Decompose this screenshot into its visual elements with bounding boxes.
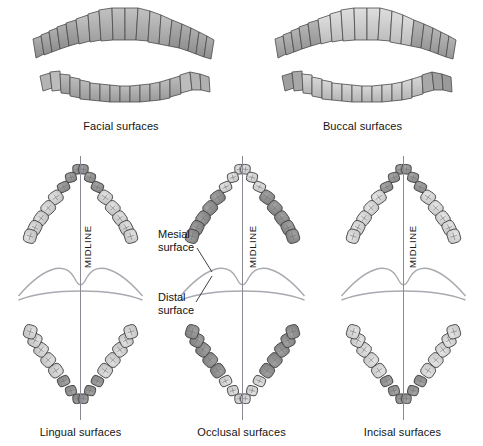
facial-maxillary-arch	[33, 8, 214, 59]
distal-line-1: Distal	[158, 291, 186, 303]
anterior-views-group	[0, 0, 483, 120]
midline-label-occlusal: MIDLINE	[247, 225, 258, 268]
arch-panel-incisal	[342, 156, 466, 420]
dental-surfaces-figure: Facial surfaces Buccal surfaces	[0, 0, 483, 446]
caption-incisal-surfaces: Incisal surfaces	[322, 426, 483, 438]
annotation-mesial-surface: Mesial surface	[158, 228, 194, 253]
caption-occlusal-surfaces: Occlusal surfaces	[161, 426, 322, 438]
caption-buccal-surfaces: Buccal surfaces	[242, 120, 483, 132]
buccal-mandibular-arch	[282, 71, 452, 102]
caption-lingual-surfaces: Lingual surfaces	[0, 426, 161, 438]
arch-panel-lingual	[19, 156, 143, 420]
annotation-distal-surface: Distal surface	[158, 291, 194, 316]
mesial-line-1: Mesial	[158, 228, 190, 240]
arch-panel-occlusal	[181, 156, 305, 420]
midline-label-lingual: MIDLINE	[82, 225, 93, 268]
distal-line-2: surface	[158, 304, 194, 316]
mesial-line-2: surface	[158, 241, 194, 253]
occlusal-views-group	[0, 148, 483, 428]
buccal-maxillary-arch	[275, 8, 456, 59]
midline-label-incisal: MIDLINE	[407, 225, 418, 268]
caption-facial-surfaces: Facial surfaces	[0, 120, 242, 132]
facial-mandibular-arch	[40, 71, 210, 102]
